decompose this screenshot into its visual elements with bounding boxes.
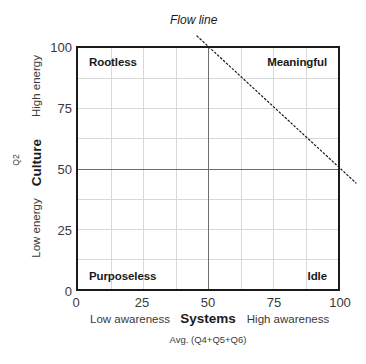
- quadrant-label-top-right: Meaningful: [267, 56, 327, 68]
- y-axis-code-label: Q2: [11, 120, 21, 200]
- x-tick-0: 0: [72, 295, 79, 310]
- quadrant-label-top-left: Rootless: [89, 56, 137, 68]
- x-tick-75: 75: [267, 295, 281, 310]
- flow-line-label: Flow line: [170, 13, 217, 27]
- x-axis-high-awareness-label: High awareness: [247, 313, 329, 325]
- x-axis-title: Systems: [180, 311, 236, 326]
- plot-area: Rootless Meaningful Purposeless Idle: [76, 46, 340, 291]
- x-tick-50: 50: [201, 295, 215, 310]
- y-tick-100: 100: [50, 40, 72, 55]
- y-tick-50: 50: [58, 162, 72, 177]
- gridline-h-major: [78, 169, 338, 170]
- gridlines: [78, 48, 338, 289]
- y-tick-0: 0: [65, 284, 72, 299]
- quadrant-label-bottom-right: Idle: [308, 270, 327, 282]
- x-tick-100: 100: [329, 295, 351, 310]
- y-tick-75: 75: [58, 101, 72, 116]
- quadrant-chart: Rootless Meaningful Purposeless Idle Flo…: [0, 0, 366, 364]
- quadrant-label-bottom-left: Purposeless: [89, 270, 156, 282]
- y-axis-high-energy-label: High energy: [30, 46, 42, 126]
- x-axis-subtitle: Avg. (Q4+Q5+Q6): [170, 334, 247, 345]
- y-axis-title: Culture: [29, 123, 44, 203]
- x-tick-25: 25: [135, 295, 149, 310]
- x-axis-low-awareness-label: Low awareness: [90, 313, 170, 325]
- y-tick-25: 25: [58, 223, 72, 238]
